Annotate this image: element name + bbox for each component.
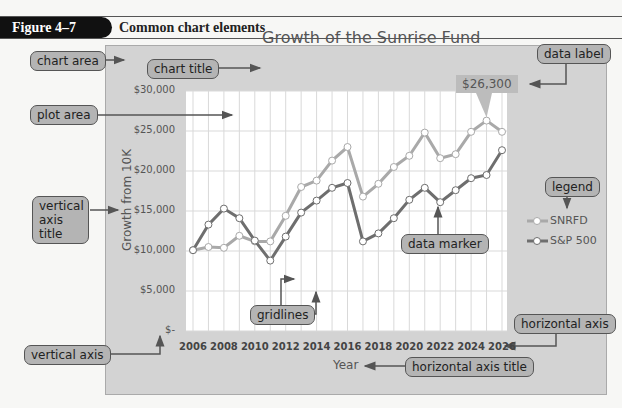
data-marker — [375, 180, 382, 187]
data-marker — [220, 244, 227, 251]
data-marker — [313, 177, 320, 184]
data-marker — [452, 187, 459, 194]
x-tick-label: 2026 — [487, 341, 517, 352]
data-marker — [421, 184, 428, 191]
legend-marker — [534, 218, 541, 225]
data-marker — [390, 164, 397, 171]
legend-marker — [534, 238, 541, 245]
x-tick-label: 2014 — [302, 341, 332, 352]
data-marker — [282, 233, 289, 240]
callout-vertical-axis-title-line2: axis title — [39, 213, 63, 241]
data-marker — [298, 209, 305, 216]
data-marker — [190, 247, 197, 254]
callout-vertical-axis-title-line1: vertical — [39, 199, 84, 213]
data-marker — [236, 215, 243, 222]
data-marker — [499, 147, 506, 154]
data-marker — [282, 212, 289, 219]
data-marker — [468, 175, 475, 182]
data-marker — [205, 221, 212, 228]
x-tick-label: 2022 — [425, 341, 455, 352]
data-marker — [329, 184, 336, 191]
data-marker — [220, 205, 227, 212]
callout-gridlines: gridlines — [250, 305, 315, 325]
data-marker — [205, 244, 212, 251]
x-tick-label: 2020 — [394, 341, 424, 352]
data-marker — [390, 215, 397, 222]
data-marker — [298, 184, 305, 191]
data-marker — [406, 152, 413, 159]
data-label: $26,300 — [456, 75, 518, 93]
x-tick-label: 2024 — [456, 341, 486, 352]
data-marker — [236, 232, 243, 239]
data-marker — [468, 128, 475, 135]
callout-chart-area: chart area — [30, 51, 106, 71]
data-marker — [483, 117, 490, 124]
data-marker — [375, 230, 382, 237]
data-marker — [329, 157, 336, 164]
x-tick-label: 2012 — [271, 341, 301, 352]
data-marker — [359, 238, 366, 245]
data-marker — [313, 197, 320, 204]
data-marker — [499, 128, 506, 135]
callout-data-label: data label — [537, 44, 611, 64]
data-marker — [267, 238, 274, 245]
callout-horizontal-axis-title: horizontal axis title — [405, 357, 534, 377]
legend-sp500: S&P 500 — [550, 234, 597, 247]
y-tick-label: $30,000 — [115, 84, 175, 95]
callout-horizontal-axis: horizontal axis — [514, 314, 616, 334]
chart-title: Growth of the Sunrise Fund — [262, 28, 480, 47]
data-marker — [359, 193, 366, 200]
y-tick-label: $5,000 — [115, 284, 175, 295]
y-tick-label: $- — [115, 324, 175, 335]
x-tick-label: 2018 — [363, 341, 393, 352]
callout-chart-title: chart title — [147, 59, 219, 79]
callout-data-marker: data marker — [401, 234, 489, 254]
x-tick-label: 2016 — [333, 341, 363, 352]
legend-snrfd: SNRFD — [550, 214, 588, 227]
y-tick-label: $25,000 — [115, 124, 175, 135]
x-tick-label: 2010 — [240, 341, 270, 352]
callout-vertical-axis-title: verticalaxis title — [32, 196, 89, 244]
data-marker — [267, 257, 274, 264]
horizontal-axis-title: Year — [333, 358, 358, 372]
callout-legend: legend — [545, 177, 600, 197]
data-marker — [437, 155, 444, 162]
x-tick-label: 2008 — [209, 341, 239, 352]
data-marker — [406, 196, 413, 203]
data-marker — [452, 151, 459, 158]
callout-vertical-axis: vertical axis — [24, 345, 111, 365]
data-marker — [483, 172, 490, 179]
callout-plot-area: plot area — [30, 105, 98, 125]
data-marker — [437, 199, 444, 206]
vertical-axis-title: Growth from 10K — [120, 149, 134, 251]
data-marker — [421, 129, 428, 136]
data-marker — [251, 237, 258, 244]
data-marker — [344, 180, 351, 187]
data-marker — [344, 144, 351, 151]
x-tick-label: 2006 — [178, 341, 208, 352]
